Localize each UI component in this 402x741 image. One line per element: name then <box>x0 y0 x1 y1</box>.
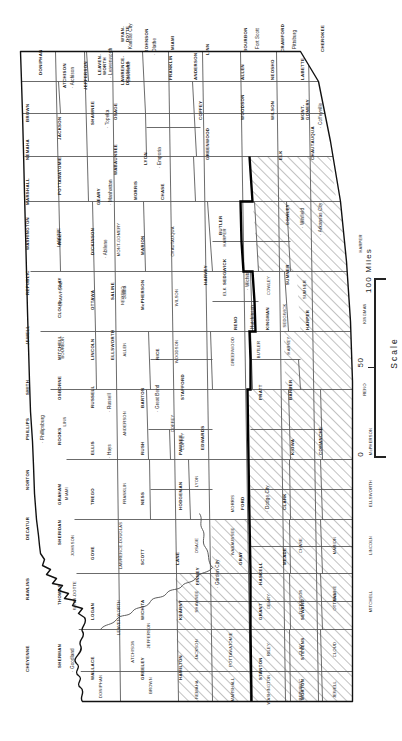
county-label-atchison: ATCHISON <box>129 640 134 662</box>
scale-tick-mid <box>368 367 376 368</box>
scale-tick-50: 50 <box>356 343 365 383</box>
county-label-marion: CHASE <box>297 537 302 552</box>
county-label-sumner: SUMNER <box>301 280 306 299</box>
county-label-harvey: HARVEY <box>285 336 290 354</box>
scale-bar: 100 Miles 50 0 Scale <box>352 270 398 470</box>
county-label-brown: BROWN <box>147 677 152 694</box>
county-label-douglas: LAWRENCE-DOUGLAS <box>117 521 122 568</box>
county-label-shawnee: SHAWNEE <box>193 590 198 612</box>
county-label-miami: MIAMI <box>63 487 68 500</box>
county-label-wyandotte: WYAN-DOTTE <box>71 580 76 609</box>
scale-bar-cap-bottom <box>374 456 386 458</box>
county-label-sedgwick: SEDGWICK <box>281 303 286 327</box>
county-label-cowley: COWLEY <box>265 276 270 295</box>
county-label-washington: WASHINGTON <box>265 674 270 704</box>
county-label-saline: SALINE <box>331 585 336 601</box>
map-page: DONIPHAN ATCHISON LEAVEN-WORTH JEFFERSON… <box>0 0 402 741</box>
county-label-lincoln: LINCOLN <box>367 535 372 554</box>
county-label-allen: ALLEN <box>121 342 126 356</box>
county-label-jewell: JEWELL <box>331 680 336 698</box>
county-label-cherokee: LABETTE <box>55 227 60 247</box>
county-label-franklin: FRANKLIN <box>121 482 126 504</box>
county-label-elk: ELK <box>221 287 226 295</box>
scale-tick-0: 0 <box>356 439 365 471</box>
county-label-greenwood: GREENWOOD <box>229 336 234 365</box>
county-label-republic: REPUBLIC <box>297 678 302 700</box>
county-label-lyon: COFFEY <box>179 432 184 450</box>
county-label-butler: BUTLER <box>255 340 260 357</box>
county-label-geary: GEARY <box>265 593 270 608</box>
county-label-harper: HARPER <box>357 234 362 252</box>
county-label-anderson: ANDERSON <box>121 411 126 436</box>
county-label-morris: MORRIS <box>229 494 234 512</box>
county-label-johnson: JOHNSON <box>69 534 74 555</box>
county-label-cloud: CLOUD <box>331 641 336 656</box>
county-label-neosho: NEOSHO <box>119 286 124 305</box>
scale-tick-100: 100 Miles <box>364 241 373 301</box>
kansas-county-map: DONIPHAN ATCHISON LEAVEN-WORTH JEFFERSON… <box>0 0 402 741</box>
county-label-mcpherson: MARION <box>331 536 336 553</box>
scale-bar-cap-top <box>374 278 386 280</box>
county-label-chautauqua: HARPER <box>221 228 226 246</box>
county-label-dickinson: DICKINSON <box>297 589 302 613</box>
county-label-linn: LINN <box>61 416 66 426</box>
county-label-nemaha: NEMAHA <box>193 680 198 699</box>
county-label-mitchell: MITCHELL <box>367 590 372 612</box>
county-label-chase: LYON <box>193 475 198 487</box>
county-label-woodson: WOODSON <box>173 339 178 362</box>
county-label-osage: OSAGE <box>193 537 198 553</box>
county-label-jefferson: JEFFERSON <box>145 622 150 648</box>
scale-label: Scale <box>389 323 399 383</box>
county-label-riley: RILEY <box>265 643 270 656</box>
county-label-coffey: COFFEY <box>169 414 174 432</box>
county-label-clay: CLAY <box>297 643 302 654</box>
county-label-labette: MONT-GOMERY <box>115 222 120 255</box>
county-label-wilson: WILSON <box>173 288 178 305</box>
county-label-ellsworth: ELLSWORTH <box>367 479 372 506</box>
county-label-jackson: JACKSON <box>193 639 198 660</box>
county-label-montgomery: CHAUTAUQUA <box>169 226 174 256</box>
county-label-pottawatomie: POTTAWATOMIE <box>227 632 232 666</box>
county-label-bourbon: BOURBON <box>59 336 64 358</box>
county-label-wabaunsee: WABAUNSEE <box>229 527 234 555</box>
county-label-leavenworth: LEAVEN-WORTH <box>115 600 120 635</box>
county-label-doniphan: DONIPHAN <box>97 674 102 697</box>
county-label-crawford: CRAWFORD <box>57 280 62 305</box>
county-label-marshall: MARSHALL <box>229 677 234 701</box>
